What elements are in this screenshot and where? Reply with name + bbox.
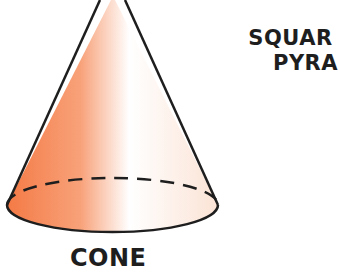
cone-body bbox=[7, 0, 218, 232]
cone-label: CONE bbox=[70, 244, 147, 272]
square-pyramid-label-line2: PYRA bbox=[243, 51, 338, 76]
square-pyramid-label-line1: SQUAR bbox=[243, 26, 338, 51]
square-pyramid-label: SQUAR PYRA bbox=[243, 26, 338, 76]
